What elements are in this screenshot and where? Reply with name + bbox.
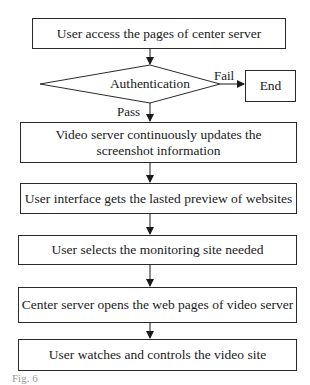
node-step3: User interface gets the lasted preview o…	[20, 183, 297, 214]
node-step6: User watches and controls the video site	[18, 339, 297, 371]
node-step4: User selects the monitoring site needed	[18, 235, 297, 265]
node-step5: Center server opens the web pages of vid…	[18, 287, 297, 323]
node-step2: Video server continuously updates the sc…	[20, 122, 297, 163]
figure-caption: Fig. 6	[12, 372, 38, 384]
node-authentication-label: Authentication	[80, 76, 220, 92]
edge-label-pass: Pass	[117, 104, 140, 120]
node-start: User access the pages of center server	[32, 18, 286, 49]
edge-label-fail: Fail	[214, 68, 234, 84]
node-end: End	[245, 70, 296, 102]
